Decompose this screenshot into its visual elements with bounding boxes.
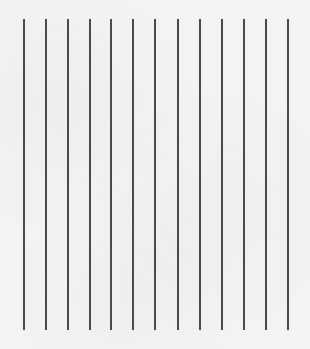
vertical-line-12	[265, 19, 267, 330]
vertical-line-1	[23, 19, 25, 330]
vertical-line-3	[67, 19, 69, 330]
vertical-line-7	[154, 19, 156, 330]
vertical-line-13	[287, 19, 289, 330]
vertical-line-4	[89, 19, 91, 330]
vertical-line-6	[132, 19, 134, 330]
vertical-line-11	[243, 19, 245, 330]
vertical-line-10	[221, 19, 223, 330]
vertical-line-8	[177, 19, 179, 330]
lined-paper	[0, 0, 310, 349]
vertical-line-2	[45, 19, 47, 330]
vertical-line-5	[110, 19, 112, 330]
vertical-line-9	[199, 19, 201, 330]
